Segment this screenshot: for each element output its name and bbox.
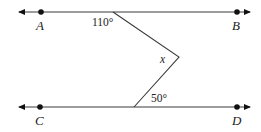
point-d <box>234 104 240 110</box>
angle-bottom-label: 50° <box>151 92 168 104</box>
point-a <box>38 9 44 15</box>
angle-x-label: x <box>159 53 166 65</box>
diagram-canvas: A B C D 110° x 50° <box>0 0 261 132</box>
arrow-left-bottom-icon <box>18 104 25 110</box>
arrow-left-top-icon <box>18 9 25 15</box>
point-c <box>37 104 43 110</box>
label-d: D <box>231 113 242 128</box>
arrow-right-bottom-icon <box>244 104 251 110</box>
label-c: C <box>35 113 44 128</box>
label-b: B <box>232 18 240 33</box>
label-a: A <box>35 18 44 33</box>
arrow-right-top-icon <box>244 9 251 15</box>
angle-top-label: 110° <box>92 16 114 28</box>
bent-transversal <box>113 12 179 107</box>
point-b <box>234 9 240 15</box>
